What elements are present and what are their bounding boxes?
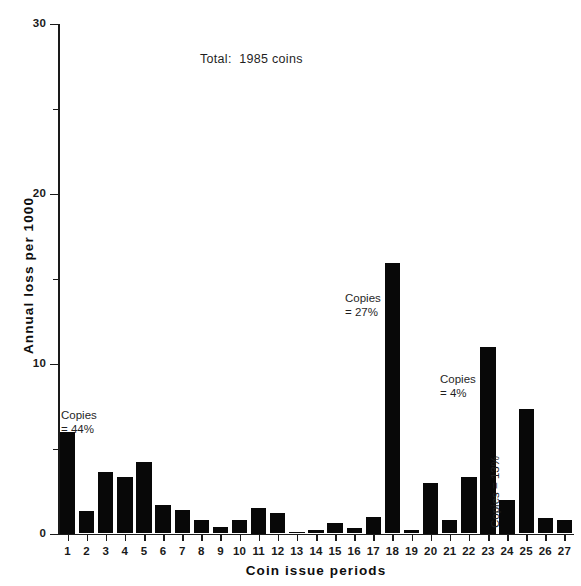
x-tick-21 [450,534,452,541]
bar-8 [194,520,209,534]
annotation-copies-44: Copies = 44% [61,409,97,436]
y-tick-minor-25 [53,109,59,111]
x-tick-20 [431,534,433,541]
x-tick-4 [125,534,127,541]
y-tick-label-30-wrap: 30 [8,17,46,31]
x-tick-16 [354,534,356,541]
bar-24 [499,500,514,534]
bar-chart-figure: Total: 1985 coins 0 10 20 30 Annual loss… [0,0,581,586]
x-tick-15 [335,534,337,541]
bar-13 [289,532,304,534]
x-tick-6 [163,534,165,541]
bar-25 [519,409,534,533]
y-tick-minor-15 [53,279,59,281]
x-tick-label-27: 27 [553,545,575,557]
bar-19 [404,530,419,533]
bar-3 [98,472,113,533]
x-tick-5 [144,534,146,541]
x-tick-17 [373,534,375,541]
annotation-copies-27: Copies = 27% [345,292,381,319]
x-tick-23 [488,534,490,541]
chart-total-label: Total: 1985 coins [200,52,303,66]
x-tick-22 [469,534,471,541]
x-tick-12 [278,534,280,541]
annotation-copies-13: Copies = 13% [489,456,501,528]
x-tick-27 [564,534,566,541]
bar-5 [136,462,151,533]
y-tick-label-0-wrap: 0 [8,527,46,541]
bar-27 [557,520,572,534]
bar-4 [117,477,132,533]
x-tick-14 [316,534,318,541]
x-tick-11 [259,534,261,541]
bar-11 [251,508,266,534]
bar-26 [538,518,553,533]
bar-14 [308,530,323,533]
bar-21 [442,520,457,534]
y-tick-minor-5 [53,449,59,451]
bar-17 [366,517,381,534]
bar-12 [270,513,285,533]
x-tick-10 [240,534,242,541]
x-tick-13 [297,534,299,541]
x-tick-19 [412,534,414,541]
bar-2 [79,511,94,533]
bar-22 [461,477,476,533]
y-tick-label-0: 0 [12,527,46,539]
bar-20 [423,483,438,534]
x-tick-25 [526,534,528,541]
x-tick-9 [220,534,222,541]
bar-18 [385,263,400,533]
bar-15 [327,523,342,533]
x-tick-2 [87,534,89,541]
y-tick-label-30: 30 [12,17,46,29]
x-tick-18 [392,534,394,541]
y-tick-20 [50,194,59,196]
bar-1 [60,432,75,534]
y-tick-30 [50,24,59,26]
bar-16 [347,528,362,533]
annotation-copies-4: Copies = 4% [440,373,476,400]
x-tick-8 [201,534,203,541]
x-tick-24 [507,534,509,541]
y-axis-title: Annual loss per 1000 [21,166,36,386]
x-tick-1 [68,534,70,541]
bar-6 [155,505,170,534]
y-tick-10 [50,364,59,366]
x-tick-26 [545,534,547,541]
x-tick-7 [182,534,184,541]
bar-9 [213,527,228,534]
x-tick-3 [106,534,108,541]
bar-7 [175,510,190,534]
x-axis-title: Coin issue periods [58,563,574,578]
bar-10 [232,520,247,534]
